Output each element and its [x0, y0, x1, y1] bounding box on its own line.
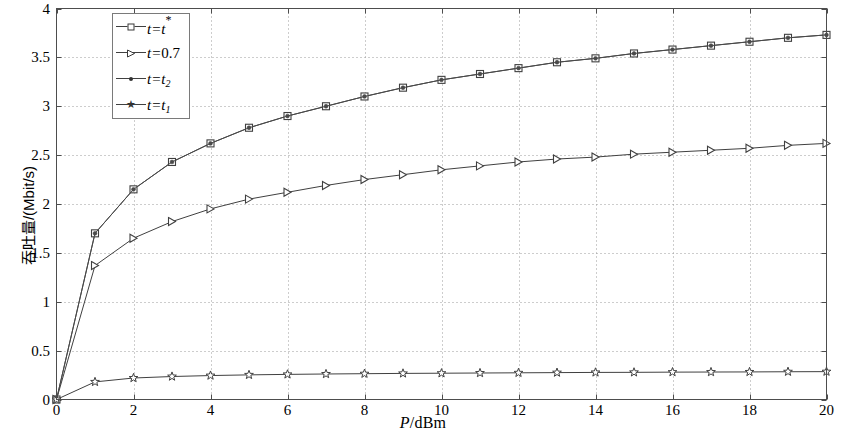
right-triangle-marker — [785, 141, 792, 149]
right-triangle-marker — [400, 171, 407, 179]
x-axis-title-unit: /dBm — [410, 414, 446, 431]
figure-canvas: 00.511.522.533.54 02468101214161820 P/dB… — [0, 0, 846, 437]
star-marker — [591, 368, 600, 376]
triangle-glyph — [127, 49, 136, 58]
dot-marker — [129, 77, 133, 81]
dot-marker — [170, 160, 174, 164]
y-axis-title: 吞吐量/(Mbit/s) — [17, 101, 38, 331]
star-marker — [707, 367, 716, 375]
y-tick-label: 0.5 — [8, 343, 50, 358]
legend-label: t=t1 — [146, 98, 170, 113]
legend-label: t=t2 — [146, 72, 170, 87]
right-triangle-marker — [207, 205, 214, 213]
legend-label: t=t* — [146, 18, 171, 37]
legend-label-prefix: t= — [147, 21, 161, 37]
legend-sample-line — [116, 20, 146, 34]
y-tick-label: 0 — [8, 392, 50, 407]
right-triangle-marker — [127, 44, 136, 62]
star-marker — [630, 368, 639, 376]
square-marker — [128, 24, 135, 31]
right-triangle-marker — [169, 218, 176, 226]
x-axis-title-variable: P — [400, 414, 410, 431]
dot-glyph — [129, 77, 133, 81]
y-tick-label: 3.5 — [8, 50, 50, 65]
star-marker — [437, 369, 446, 377]
star-marker — [514, 368, 523, 376]
series-t-0-7 — [53, 139, 830, 403]
star-marker — [745, 367, 754, 375]
dot-marker — [401, 86, 405, 90]
star-marker: ★ — [126, 100, 136, 110]
star-marker — [245, 370, 254, 378]
right-triangle-marker — [477, 162, 484, 170]
series-t-t1 — [52, 367, 831, 403]
star-marker — [206, 371, 215, 379]
legend-label-superscript: * — [165, 13, 171, 27]
star-marker — [360, 369, 369, 377]
x-axis-title: P/dBm — [0, 414, 846, 432]
legend-label-prefix: t= — [147, 71, 161, 87]
legend-label-value: 0.7 — [161, 45, 180, 61]
right-triangle-marker — [246, 195, 253, 203]
star-marker — [322, 369, 331, 377]
legend-item-t-0-7[interactable]: t=0.7 — [113, 40, 189, 66]
dot-marker — [478, 72, 482, 76]
dot-marker — [286, 114, 290, 118]
right-triangle-marker — [361, 176, 368, 184]
right-triangle-marker — [746, 144, 753, 152]
right-triangle-marker — [323, 181, 330, 189]
legend-label: t=0.7 — [146, 46, 180, 61]
legend-label-subscript: 2 — [165, 78, 170, 89]
legend-item-t-t-[interactable]: t=t* — [113, 14, 189, 40]
right-triangle-marker — [554, 155, 561, 163]
star-marker — [476, 368, 485, 376]
right-triangle-marker — [438, 166, 445, 174]
legend-item-t-t1[interactable]: ★t=t1 — [113, 92, 189, 118]
star-marker — [129, 373, 138, 381]
dot-marker — [363, 95, 367, 99]
star-glyph: ★ — [126, 99, 136, 110]
dot-marker — [709, 44, 713, 48]
right-triangle-marker — [669, 148, 676, 156]
star-marker — [399, 369, 408, 377]
right-triangle-marker — [284, 188, 291, 196]
legend-sample-line: ★ — [116, 98, 146, 112]
star-marker — [668, 368, 677, 376]
right-triangle-marker — [130, 234, 137, 242]
legend-label-subscript: 1 — [165, 104, 170, 115]
y-tick-label: 4 — [8, 1, 50, 16]
chart-legend[interactable]: t=t*t=0.7t=t2★t=t1 — [112, 13, 190, 119]
star-marker — [784, 367, 793, 375]
right-triangle-marker — [708, 146, 715, 154]
legend-label-prefix: t= — [147, 97, 161, 113]
dot-marker — [247, 126, 251, 130]
dot-marker — [632, 52, 636, 56]
star-marker — [168, 372, 177, 380]
dot-marker — [209, 141, 213, 145]
square-glyph — [128, 24, 135, 31]
right-triangle-marker — [631, 150, 638, 158]
star-marker — [553, 368, 562, 376]
dot-marker — [517, 66, 521, 70]
legend-sample-line — [116, 46, 146, 60]
series-line — [57, 143, 827, 399]
dot-marker — [594, 56, 598, 60]
dot-marker — [555, 60, 559, 64]
dot-marker — [440, 78, 444, 82]
legend-label-prefix: t= — [147, 45, 161, 61]
dot-marker — [748, 40, 752, 44]
legend-item-t-t2[interactable]: t=t2 — [113, 66, 189, 92]
right-triangle-marker — [592, 153, 599, 161]
dot-marker — [786, 36, 790, 40]
star-marker — [283, 370, 292, 378]
legend-sample-line — [116, 72, 146, 86]
dot-marker — [132, 187, 136, 191]
right-triangle-marker — [92, 262, 99, 270]
dot-marker — [93, 231, 97, 235]
dot-marker — [671, 48, 675, 52]
star-marker — [91, 377, 100, 385]
right-triangle-marker — [515, 158, 522, 166]
dot-marker — [324, 104, 328, 108]
